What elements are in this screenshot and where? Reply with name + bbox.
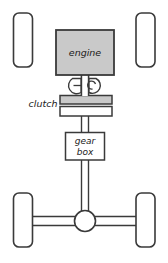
clutch-to-gearbox-shaft (82, 116, 89, 133)
front-right-wheel (136, 13, 155, 67)
gearbox-label-line2: box (77, 147, 94, 157)
engine-label: engine (69, 47, 102, 58)
clutch-release-fork-left (69, 79, 81, 94)
clutch-plate-upper (60, 96, 112, 105)
rear-left-wheel (14, 193, 33, 247)
clutch-label: clutch (29, 98, 58, 109)
clutch-plate-lower (60, 107, 112, 117)
rear-right-wheel (136, 193, 155, 247)
clutch-release-fork-right (88, 79, 101, 94)
drivetrain-diagram: gear box engine (0, 0, 168, 263)
diagram-canvas: gear box engine (0, 0, 168, 263)
drive-shaft (82, 160, 89, 213)
gearbox-label-line1: gear (75, 136, 97, 146)
differential (75, 211, 96, 232)
front-left-wheel (14, 13, 33, 67)
